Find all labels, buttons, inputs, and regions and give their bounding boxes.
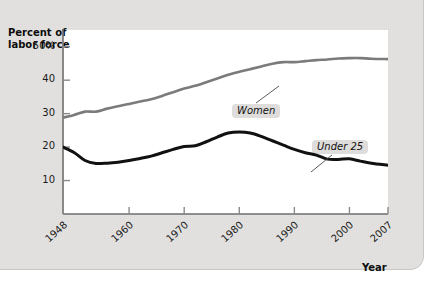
chart-svg [0,0,441,287]
leader-line-women [256,86,279,103]
series-line-women [63,58,388,118]
chart-figure: Percent of labor force Year 1020304050% … [0,0,441,287]
series-line-under-25 [63,132,388,165]
